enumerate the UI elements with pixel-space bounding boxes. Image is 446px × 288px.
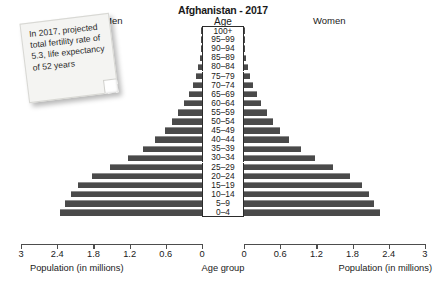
women-bar — [244, 200, 374, 206]
women-bar — [244, 155, 315, 161]
men-bar — [60, 209, 202, 215]
men-bar — [65, 200, 202, 206]
women-bar — [244, 45, 245, 51]
women-bar — [244, 82, 253, 88]
population-pyramid-chart: Afghanistan - 2017 Age Men Women In 2017… — [0, 0, 446, 288]
men-bar — [143, 146, 202, 152]
chart-title: Afghanistan - 2017 — [0, 4, 446, 16]
axis-tick-label: 1.8 — [338, 249, 368, 259]
men-bar — [178, 109, 202, 115]
men-bar — [172, 118, 202, 124]
women-side-label: Women — [313, 15, 346, 26]
women-bar — [244, 27, 245, 33]
women-bar — [244, 55, 246, 61]
men-bar — [184, 100, 202, 106]
axis-tick-label: 0 — [187, 249, 217, 259]
pyramid-plot-area: 100+95–9990–9485–8980–8475–7970–7465–696… — [0, 26, 446, 238]
men-bar — [110, 164, 202, 170]
women-bar — [244, 64, 248, 70]
women-bar — [244, 100, 261, 106]
women-bar — [244, 136, 289, 142]
axis-tick-label: 3 — [6, 249, 36, 259]
axis-tick-label: 0.6 — [265, 249, 295, 259]
women-bar — [244, 182, 362, 188]
men-bar — [165, 127, 202, 133]
men-bar — [189, 91, 202, 97]
men-bar — [78, 182, 202, 188]
women-bar — [244, 36, 245, 42]
axis-tick-label: 1.2 — [115, 249, 145, 259]
left-axis-line — [21, 244, 203, 245]
men-bar — [193, 82, 202, 88]
right-axis-title: Population (in millions) — [338, 263, 432, 273]
axis-tick-label: 1.8 — [78, 249, 108, 259]
men-bar — [71, 191, 202, 197]
axis-tick-label: 2.4 — [374, 249, 404, 259]
axis-tick-label: 2.4 — [42, 249, 72, 259]
women-bar — [244, 73, 250, 79]
men-bar — [92, 173, 202, 179]
women-bar — [244, 109, 267, 115]
axis-tick-label: 3 — [410, 249, 440, 259]
men-bar — [128, 155, 202, 161]
axis-tick-label: 0 — [229, 249, 259, 259]
women-bar — [244, 209, 380, 215]
women-bar — [244, 173, 350, 179]
axis-tick-label: 0.6 — [151, 249, 181, 259]
pyramid-row: 0–4 — [0, 208, 446, 217]
women-bar — [244, 164, 333, 170]
women-bar — [244, 191, 369, 197]
age-group-label: 0–4 — [202, 208, 244, 217]
women-bar — [244, 146, 301, 152]
axis-tick-label: 1.2 — [301, 249, 331, 259]
right-axis-line — [244, 244, 426, 245]
men-bar — [155, 136, 202, 142]
women-bar — [244, 127, 280, 133]
women-bar — [244, 91, 257, 97]
women-bar — [244, 118, 273, 124]
